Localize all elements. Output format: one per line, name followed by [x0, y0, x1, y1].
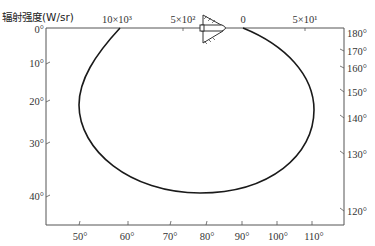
left-tick-label: 40° — [29, 191, 44, 202]
left-tick-label: 0° — [35, 24, 44, 35]
chart-title: 辐射强度(W/sr) — [2, 11, 74, 23]
left-tick-label: 10° — [29, 58, 44, 69]
right-tick-label: 180° — [347, 28, 367, 39]
right-tick-label: 170° — [347, 46, 367, 57]
top-tick-label: 10×10³ — [102, 14, 132, 25]
right-tick-label: 140° — [347, 113, 367, 124]
bottom-tick-label: 60° — [120, 231, 135, 242]
radiation-curve — [79, 28, 314, 193]
bottom-tick-label: 100° — [268, 231, 288, 242]
right-tick-label: 130° — [347, 149, 367, 160]
bottom-tick-label: 110° — [304, 231, 324, 242]
bottom-tick-label: 80° — [200, 231, 215, 242]
aircraft-icon — [200, 15, 226, 44]
right-tick-label: 120° — [347, 206, 367, 217]
bottom-tick-label: 90° — [235, 231, 250, 242]
bottom-axis-ticks: 50° 60° 70° 80° 90° 100° 110° — [73, 221, 324, 242]
plot-frame — [46, 28, 344, 225]
right-tick-label: 160° — [347, 63, 367, 74]
top-tick-label: 5×10² — [171, 14, 196, 25]
top-tick-label: 0 — [240, 14, 245, 25]
left-tick-label: 20° — [29, 96, 44, 107]
radiation-pattern-chart: 辐射强度(W/sr) 10×10³ 5×10² 0 5×10¹ 0° 10° 2… — [0, 0, 375, 246]
left-tick-label: 30° — [29, 138, 44, 149]
bottom-tick-label: 50° — [73, 231, 88, 242]
left-axis-ticks: 0° 10° 20° 30° 40° — [29, 24, 50, 202]
top-tick-label: 5×10¹ — [293, 14, 318, 25]
right-tick-label: 150° — [347, 87, 367, 98]
bottom-tick-label: 70° — [163, 231, 178, 242]
